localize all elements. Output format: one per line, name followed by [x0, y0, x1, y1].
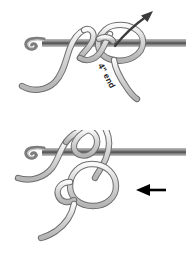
diagram-panel-top: 4" end — [0, 0, 186, 130]
diagram-panel-bottom: Leave ring loose until stitches are made… — [0, 130, 186, 259]
crochet-instruction-diagram: 4" end — [0, 0, 186, 259]
callout-pointer-arrow — [136, 184, 166, 196]
